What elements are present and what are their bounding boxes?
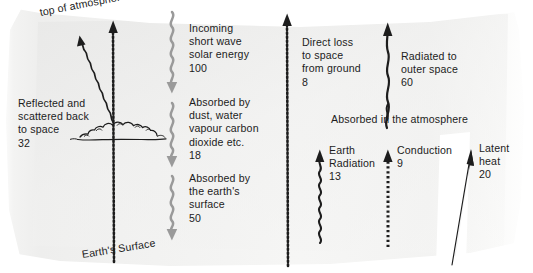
flow-label-reflected: Reflected and scattered back to space [18,97,89,137]
flow-label-latent-heat: Latent heat [479,142,509,168]
flow-label-direct-loss: Direct loss to space from ground [302,36,361,76]
flow-label-conduction: Conduction [397,144,452,157]
wavy-down-arrow-incoming [167,12,178,94]
flow-value-incoming: 100 [189,62,207,75]
beaded-up-arrow-direct-loss [282,14,291,267]
flow-value-direct-loss: 8 [302,76,308,89]
flow-label-radiated: Radiated to outer space [401,50,458,76]
beaded-vertical-axis-icon [109,21,118,263]
flow-value-absorbed-surface: 50 [189,212,201,225]
flow-value-radiated: 60 [401,76,413,89]
flow-label-absorbed-surface: Absorbed by the earth's surface [189,172,250,212]
energy-budget-diagram: top of atmosphere Earth's Surface Reflec… [0,0,533,273]
flow-label-incoming: Incoming short wave solar energy [189,22,249,62]
flow-label-earth-radiation: Earth Radiation [329,144,375,170]
zigzag-up-arrow-earth-radiation [315,150,324,244]
label-absorbed-in-atmosphere: Absorbed in the atmosphere [331,113,468,126]
wavy-down-arrow-absorbed-surface [167,176,178,241]
flow-value-earth-radiation: 13 [329,170,341,183]
dashed-up-arrow-conduction [383,150,392,248]
flow-value-absorbed-dust: 18 [189,149,201,162]
wavy-down-arrow-absorbed-dust [167,103,178,168]
flow-value-latent-heat: 20 [479,168,491,181]
flow-value-conduction: 9 [397,157,403,170]
flow-label-absorbed-dust: Absorbed by dust, water vapour carbon di… [189,96,259,149]
flow-value-reflected: 32 [18,137,30,150]
